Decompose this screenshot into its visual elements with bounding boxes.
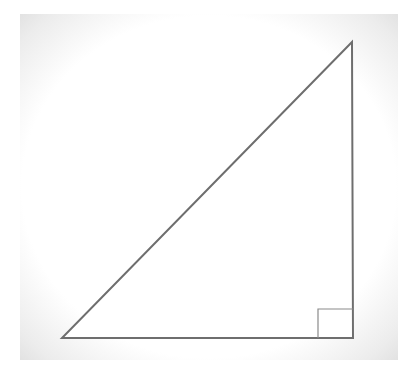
right-triangle (62, 42, 353, 338)
triangle-diagram (0, 0, 415, 374)
